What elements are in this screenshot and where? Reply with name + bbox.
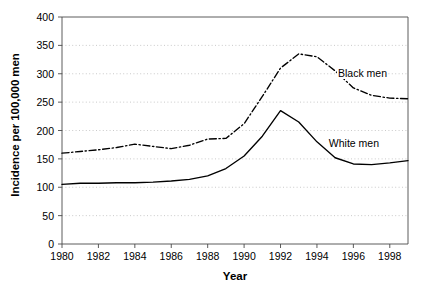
x-tick-label: 1988 bbox=[188, 251, 228, 261]
series-label-white-men: White men bbox=[328, 137, 380, 149]
x-tick-label: 1996 bbox=[333, 251, 373, 261]
x-tick-label: 1992 bbox=[261, 251, 301, 261]
y-tick-label: 350 bbox=[20, 40, 54, 50]
y-tick-label: 200 bbox=[20, 126, 54, 136]
y-tick-label: 100 bbox=[20, 182, 54, 192]
series-label-black-men: Black men bbox=[337, 67, 388, 79]
y-tick-label: 50 bbox=[20, 211, 54, 221]
x-tick-label: 1998 bbox=[370, 251, 410, 261]
y-tick-label: 300 bbox=[20, 69, 54, 79]
x-tick-label: 1984 bbox=[115, 251, 155, 261]
x-tick-label: 1982 bbox=[78, 251, 118, 261]
y-tick-label: 250 bbox=[20, 97, 54, 107]
x-tick-label: 1994 bbox=[297, 251, 337, 261]
x-tick-label: 1990 bbox=[224, 251, 264, 261]
x-tick-label: 1986 bbox=[151, 251, 191, 261]
x-axis-title: Year bbox=[62, 270, 408, 282]
y-tick-label: 400 bbox=[20, 12, 54, 22]
x-tick-label: 1980 bbox=[42, 251, 82, 261]
axis-ticks bbox=[58, 17, 390, 248]
y-tick-label: 0 bbox=[20, 239, 54, 249]
chart-figure: Incidence per 100,000 men Year 050100150… bbox=[0, 0, 430, 305]
y-tick-label: 150 bbox=[20, 154, 54, 164]
